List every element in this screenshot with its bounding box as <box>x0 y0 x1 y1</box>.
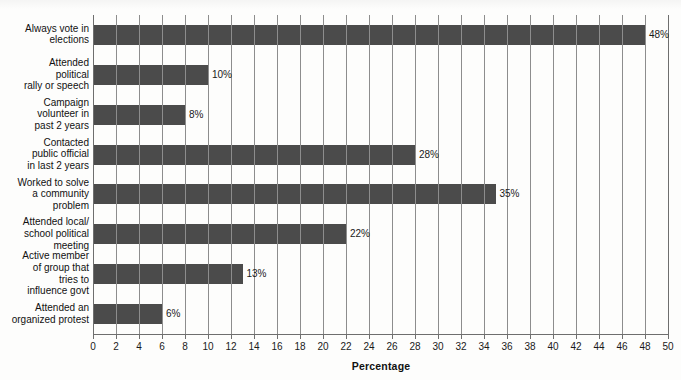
category-label: Attended local/school politicalmeeting <box>1 216 89 251</box>
x-tick-label: 0 <box>81 341 105 353</box>
gridline <box>392 15 393 334</box>
bar-value-label: 10% <box>212 69 232 81</box>
x-tick-label: 4 <box>127 341 151 353</box>
x-tick-mark <box>576 334 577 339</box>
gridline <box>576 15 577 334</box>
gridline <box>323 15 324 334</box>
cropped-text-remnant <box>0 0 681 9</box>
gridline <box>369 15 370 334</box>
gridline <box>507 15 508 334</box>
x-tick-mark <box>185 334 186 339</box>
x-tick-mark <box>369 334 370 339</box>
bar-value-label: 28% <box>419 149 439 161</box>
gridline <box>300 15 301 334</box>
x-tick-mark <box>507 334 508 339</box>
bar-value-label: 22% <box>350 228 370 240</box>
bar-value-label: 13% <box>247 268 267 280</box>
x-tick-mark <box>277 334 278 339</box>
x-tick-label: 40 <box>541 341 565 353</box>
x-tick-mark <box>346 334 347 339</box>
x-tick-mark <box>139 334 140 339</box>
x-tick-mark <box>93 334 94 339</box>
gridline <box>139 15 140 334</box>
gridline <box>162 15 163 334</box>
gridline <box>622 15 623 334</box>
category-axis: Always vote inelectionsAttendedpolitical… <box>0 0 89 334</box>
gridline <box>415 15 416 334</box>
x-tick-mark <box>622 334 623 339</box>
category-label: Attendedpoliticalrally or speech <box>1 57 89 92</box>
category-label: Worked to solvea communityproblem <box>1 177 89 212</box>
category-label: Attended anorganized protest <box>1 302 89 325</box>
gridline <box>530 15 531 334</box>
gridline <box>346 15 347 334</box>
gridline <box>484 15 485 334</box>
gridline <box>645 15 646 334</box>
x-tick-label: 38 <box>518 341 542 353</box>
x-tick-label: 12 <box>219 341 243 353</box>
bar-value-label: 35% <box>500 188 520 200</box>
x-tick-mark <box>254 334 255 339</box>
x-tick-label: 30 <box>426 341 450 353</box>
x-tick-label: 50 <box>656 341 680 353</box>
gridline <box>277 15 278 334</box>
x-tick-mark <box>116 334 117 339</box>
x-tick-label: 14 <box>242 341 266 353</box>
x-axis-line <box>93 334 669 335</box>
x-tick-mark <box>484 334 485 339</box>
x-tick-label: 22 <box>334 341 358 353</box>
x-tick-mark <box>438 334 439 339</box>
x-tick-label: 28 <box>403 341 427 353</box>
gridline <box>231 15 232 334</box>
x-tick-label: 16 <box>265 341 289 353</box>
x-tick-mark <box>599 334 600 339</box>
x-tick-label: 32 <box>449 341 473 353</box>
gridline <box>93 15 94 334</box>
x-tick-label: 2 <box>104 341 128 353</box>
gridline <box>668 15 669 334</box>
x-tick-mark <box>645 334 646 339</box>
x-tick-mark <box>461 334 462 339</box>
x-tick-label: 20 <box>311 341 335 353</box>
bar-chart-figure: Always vote inelectionsAttendedpolitical… <box>0 0 681 380</box>
bar <box>93 184 496 204</box>
x-tick-label: 18 <box>288 341 312 353</box>
gridline <box>208 15 209 334</box>
x-tick-label: 48 <box>633 341 657 353</box>
gridline <box>116 15 117 334</box>
gridline <box>599 15 600 334</box>
x-tick-label: 46 <box>610 341 634 353</box>
gridline <box>254 15 255 334</box>
x-tick-label: 10 <box>196 341 220 353</box>
x-tick-label: 24 <box>357 341 381 353</box>
x-axis-title: Percentage <box>93 360 669 372</box>
gridline <box>553 15 554 334</box>
x-tick-mark <box>392 334 393 339</box>
category-label: Always vote inelections <box>1 23 89 46</box>
plot-area <box>93 15 668 334</box>
gridline <box>185 15 186 334</box>
category-label: Campaignvolunteer inpast 2 years <box>1 97 89 132</box>
x-tick-label: 26 <box>380 341 404 353</box>
gridline <box>461 15 462 334</box>
x-tick-label: 6 <box>150 341 174 353</box>
x-tick-mark <box>668 334 669 339</box>
x-tick-label: 34 <box>472 341 496 353</box>
x-tick-mark <box>553 334 554 339</box>
bar-value-label: 6% <box>166 308 180 320</box>
bar-value-label: 8% <box>189 109 203 121</box>
x-tick-label: 42 <box>564 341 588 353</box>
x-tick-label: 8 <box>173 341 197 353</box>
bar-value-label: 48% <box>649 29 669 41</box>
x-tick-mark <box>162 334 163 339</box>
x-tick-mark <box>530 334 531 339</box>
bar <box>93 304 162 324</box>
x-tick-mark <box>231 334 232 339</box>
category-label: Contactedpublic officialin last 2 years <box>1 137 89 172</box>
x-tick-mark <box>415 334 416 339</box>
bar <box>93 65 208 85</box>
x-tick-label: 36 <box>495 341 519 353</box>
x-tick-label: 44 <box>587 341 611 353</box>
x-tick-mark <box>300 334 301 339</box>
gridline <box>438 15 439 334</box>
